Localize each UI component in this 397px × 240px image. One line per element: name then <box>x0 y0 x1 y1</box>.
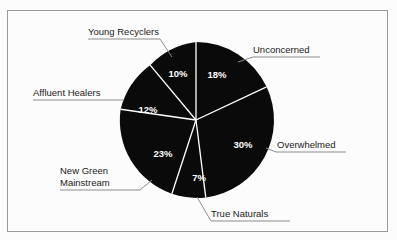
category-label-overwhelmed[interactable]: Overwhelmed <box>277 139 336 150</box>
category-label-true-naturals[interactable]: True Naturals <box>211 208 268 219</box>
pct-label-affluent-healers: 12% <box>138 104 158 115</box>
category-label-new-green-mainstream-line2[interactable]: Mainstream <box>60 177 110 188</box>
category-label-new-green-mainstream-line1[interactable]: New Green <box>60 165 108 176</box>
pct-label-young-recyclers: 10% <box>168 68 188 79</box>
category-label-affluent-healers[interactable]: Affluent Healers <box>33 87 101 98</box>
pie-chart-screenshot: 18% 30% 7% 23% 12% 10% Young Recyclers U… <box>0 0 397 240</box>
leader-line-unconcerned <box>238 57 320 62</box>
pie-chart: 18% 30% 7% 23% 12% 10% Young Recyclers U… <box>0 0 397 240</box>
category-label-unconcerned[interactable]: Unconcerned <box>253 44 310 55</box>
category-label-young-recyclers[interactable]: Young Recyclers <box>88 26 159 37</box>
pct-label-unconcerned: 18% <box>207 69 227 80</box>
leader-line-young-recyclers <box>88 39 172 57</box>
pct-label-overwhelmed: 30% <box>233 139 253 150</box>
pct-label-new-green-mainstream: 23% <box>153 148 173 159</box>
pct-label-true-naturals: 7% <box>192 172 206 183</box>
